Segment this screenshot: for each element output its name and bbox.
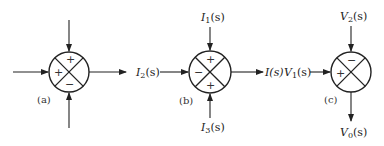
input-label-bottom-b: I3(s)	[200, 121, 225, 135]
input-label-top-b: I1(s)	[200, 11, 225, 25]
caption-a: (a)	[37, 94, 51, 105]
sign-top-c: −	[347, 54, 356, 67]
sign-top-a: +	[66, 53, 75, 66]
input-label-left-c: V1(s)	[284, 66, 311, 80]
input-label-top-c: V2(s)	[340, 10, 367, 24]
summing-junction-diagram: + + − (a) + − + (b) I1(s) I2(s) I3(s) I(…	[0, 0, 384, 146]
sign-top-b: +	[206, 53, 215, 66]
output-label-c: V0(s)	[340, 126, 367, 140]
output-label-b: I(s)	[264, 66, 284, 79]
caption-b: (b)	[179, 95, 193, 106]
sign-bottom-a: −	[65, 78, 74, 91]
junction-c: − + (c) V2(s) V1(s) V0(s)	[284, 10, 371, 140]
sign-left-c: +	[336, 67, 345, 80]
sign-left-b: −	[194, 66, 203, 79]
junction-a: + + − (a)	[13, 20, 126, 128]
sign-left-a: +	[54, 66, 63, 79]
caption-c: (c)	[324, 94, 338, 105]
junction-b: + − + (b) I1(s) I2(s) I3(s) I(s)	[135, 11, 284, 135]
sign-bottom-b: +	[206, 79, 215, 92]
input-label-left-b: I2(s)	[135, 66, 160, 80]
